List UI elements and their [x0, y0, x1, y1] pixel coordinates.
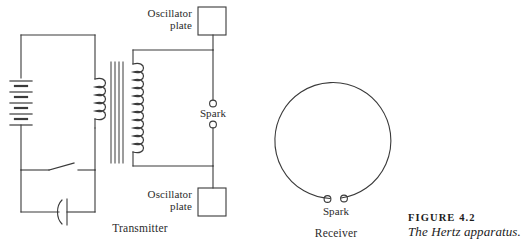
figure-caption-block: FIGURE 4.2 The Hertz apparatus.	[408, 212, 528, 240]
oscillator-plate-top-label: Oscillator plate	[128, 7, 192, 32]
transmitter-primary-circuit	[10, 35, 106, 225]
oscillator-plate-bottom-label: Oscillator plate	[128, 188, 192, 213]
receiver-section-label: Receiver	[284, 227, 388, 240]
oscillator-plate-top	[198, 7, 226, 35]
receiver-terminal-right	[341, 195, 348, 202]
oscillator-plate-bottom-label-line1: Oscillator	[128, 188, 192, 200]
secondary-coil	[133, 63, 144, 152]
oscillator-plate-top-label-line1: Oscillator	[128, 7, 192, 19]
receiver-spark-label: Spark	[305, 205, 367, 217]
spark-terminal-lower	[210, 121, 217, 128]
oscillator-plate-bottom-label-line2: plate	[128, 200, 192, 212]
oscillator-plate-top-label-line2: plate	[128, 19, 192, 31]
battery-symbol	[10, 81, 32, 125]
receiver-ring	[275, 83, 391, 199]
transmitter-section-label: Transmitter	[88, 222, 192, 235]
figure-number: FIGURE 4.2	[408, 212, 528, 223]
transmitter-spark-label: Spark	[182, 107, 244, 119]
spark-terminal-upper	[210, 100, 217, 107]
transformer-core	[111, 62, 123, 163]
hertz-apparatus-figure: Oscillator plate Oscillator plate Spark …	[0, 0, 528, 251]
knife-switch-blade	[49, 163, 74, 170]
primary-coil	[95, 78, 106, 119]
receiver-loop	[275, 83, 391, 203]
figure-caption: The Hertz apparatus.	[408, 224, 528, 240]
oscillator-plate-bottom	[198, 188, 226, 216]
